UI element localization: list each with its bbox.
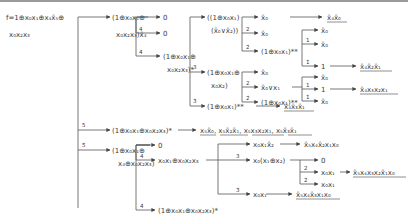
node-d2-child-2: 1 (321, 86, 325, 94)
node-d2-edges (292, 77, 318, 101)
node-c-child-2: x̄₀ (261, 30, 268, 38)
node-d2-child-3: x̄₀ (321, 98, 328, 106)
node-g2-child-2: x₀(x₁⊕x₂) (253, 157, 285, 165)
edge-label-4-bar-g: 4̄ (140, 203, 144, 209)
node-g2-edges (206, 144, 250, 194)
result-f: x₅x̄₀, x₅x̄₂x̄₁, x₅x₃x₂x₁, x₅x̄₃x̄₁ (200, 127, 297, 135)
node-c-child-1: x̄₀ (261, 14, 268, 22)
edge-label-5-bar: 5̄ (82, 142, 86, 148)
result-g2c: x̄₅x₄x̄₃x₁x₀ (296, 191, 331, 199)
result-c1: x̄₄x̄₀ (327, 14, 341, 22)
node-c-line1: ((1⊕x₀x₁) (207, 14, 240, 22)
edge-label-4: 4 (139, 26, 143, 32)
edge-label-1: 1 (306, 37, 310, 43)
result-g2b2: x̄₅x₄x₃x₂x̄₁x₀ (353, 169, 395, 177)
edge-label-2-bar: 2̄ (246, 44, 250, 50)
result-g2a: x̄₅x₄x̄₂x₁x₀ (304, 141, 339, 149)
node-d-child-1: x̄₀ (261, 69, 268, 77)
node-a-child-0-first: 0 (163, 14, 167, 22)
edge-label-4-bar: 4̄ (139, 49, 143, 55)
result-c3c: x̄₄x̄₂x̄₁ (360, 63, 381, 71)
node-a-line2: x₀x₂x₃)x̄₄ (116, 31, 147, 39)
node-c-child-3: (1⊕x₀x₁)** (261, 48, 298, 56)
node-g-child-3: (1⊕x₀x₁⊕x₀x₂x₃)* (158, 207, 218, 215)
node-d-edges (242, 72, 258, 102)
edge-label-1-bar: 1̄ (306, 59, 310, 65)
node-b-edges (190, 17, 205, 106)
edge-label-2-d: 2 (246, 80, 250, 86)
edge-label-2-bar-d: 2̄ (246, 95, 250, 101)
node-d-line1: (1⊕x₀x₁⊕ (207, 69, 240, 77)
result-d2b: x̄₄x₃x₂x₁ (360, 86, 388, 94)
node-c3-child-2: x̄₀ (321, 41, 328, 49)
edge-label-3-bar: 3̄ (193, 98, 197, 104)
node-b-line1: (1⊕x₀x₁⊕ (163, 53, 196, 61)
node-b-line2: x₀x₂x₃)* (167, 66, 195, 74)
root-expression-line1: f=1⊕x₀x₁⊕x₄x̄₅⊕ (6, 14, 64, 22)
root-edges (78, 17, 110, 208)
node-a-child-0-second: 0 (163, 30, 167, 38)
node-d-child-2: x̄₀∨x₁ (261, 84, 280, 92)
node-f: (1⊕x₀x₁⊕x₀x₂x₃)* (112, 127, 172, 135)
edge-label-4-g: 4 (140, 153, 144, 159)
node-c3-edges (302, 30, 318, 66)
node-d2-child-1: x̄₀ (321, 74, 328, 82)
edge-label-2: 2 (246, 26, 250, 32)
node-c3-child-3: 1 (321, 63, 325, 71)
node-e: (1⊕x₀x₁)** (207, 103, 244, 111)
node-g2b-child-3: x₀x₁ (321, 181, 335, 189)
node-c3-child-1: x̄₀ (321, 27, 328, 35)
node-g-child-2: x₀x₁⊕x₀x₂x₃ (158, 157, 199, 165)
edge-label-3: 3 (193, 64, 197, 70)
edge-label-3-bar-g2: 3̄ (236, 187, 240, 193)
edge-label-1-bar-d2: 1̄ (306, 94, 310, 100)
node-d-line2: x₀x₂) (211, 82, 228, 90)
node-g2-child-1: x₀x₁x̄₂ (253, 141, 274, 149)
node-g2b-child-1: 0 (321, 157, 325, 165)
edge-label-1-d2: 1 (306, 82, 310, 88)
node-a-line1: (1⊕x₀x₁⊕ (112, 14, 145, 22)
node-c-edges (242, 17, 258, 51)
node-g2b-child-2: x₀x₁ (321, 169, 335, 177)
edge-label-5: 5 (82, 122, 86, 128)
result-e: x̄₄x̄₃x̄₁ (284, 103, 305, 111)
edge-label-3-g2: 3 (236, 153, 240, 159)
node-g2-child-3: x₀x₁ (253, 191, 267, 199)
node-g-child-1: 0 (158, 142, 162, 150)
decomposition-tree-diagram: f=1⊕x₀x₁⊕x₄x̄₅⊕ x₀x₂x₃ 5 5̄ (1⊕x₀x₁⊕ x₀x… (0, 0, 408, 224)
node-c-line2: (x̄₀∨x̄₂)) (211, 27, 238, 35)
root-expression-line2: x₀x₂x₃ (9, 31, 30, 39)
edge-label-2-bar-g2b: 2̄ (304, 177, 308, 183)
edge-label-2-g2b: 2 (304, 165, 308, 171)
